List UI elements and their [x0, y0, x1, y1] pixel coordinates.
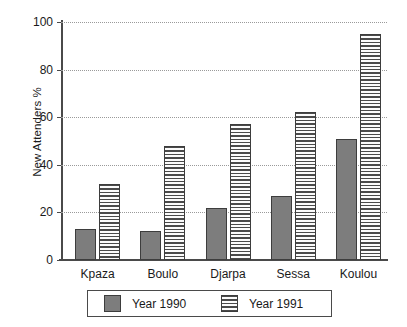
bar-group-djarpa	[206, 22, 251, 260]
legend-label-year-1990: Year 1990	[132, 297, 186, 311]
y-tick-label-60: 60	[40, 110, 53, 124]
bar-djarpa-year-1991	[230, 124, 251, 260]
bar-djarpa-year-1990	[206, 208, 227, 260]
bar-chart: New Attenders % 020406080100KpazaBouloDj…	[0, 0, 407, 327]
plot-area: 020406080100KpazaBouloDjarpaSessaKoulou	[61, 22, 387, 260]
bar-koulou-year-1991	[360, 34, 381, 260]
bar-group-sessa	[271, 22, 316, 260]
legend-label-year-1991: Year 1991	[249, 297, 303, 311]
legend-swatch-year-1990	[104, 295, 121, 312]
x-axis-label-koulou: Koulou	[313, 267, 403, 281]
bar-group-koulou	[336, 22, 381, 260]
y-tick-mark-20	[57, 212, 61, 213]
bar-koulou-year-1990	[336, 139, 357, 260]
y-tick-mark-40	[57, 165, 61, 166]
bar-sessa-year-1991	[295, 112, 316, 260]
legend-entry-year-1991: Year 1991	[221, 291, 303, 316]
chart-legend: Year 1990 Year 1991	[87, 290, 332, 317]
bar-group-kpaza	[75, 22, 120, 260]
y-axis-line	[61, 20, 63, 261]
y-tick-label-0: 0	[46, 253, 53, 267]
legend-entry-year-1990: Year 1990	[104, 291, 186, 316]
bar-group-boulo	[140, 22, 185, 260]
bar-kpaza-year-1991	[99, 184, 120, 260]
legend-swatch-year-1991	[221, 295, 238, 312]
y-tick-label-20: 20	[40, 205, 53, 219]
y-tick-label-80: 80	[40, 63, 53, 77]
bar-boulo-year-1990	[140, 231, 161, 260]
bar-sessa-year-1990	[271, 196, 292, 260]
bar-kpaza-year-1990	[75, 229, 96, 260]
y-tick-label-40: 40	[40, 158, 53, 172]
y-tick-mark-100	[57, 22, 61, 23]
y-tick-mark-0	[57, 260, 61, 261]
y-tick-mark-80	[57, 70, 61, 71]
y-tick-label-100: 100	[33, 15, 53, 29]
bar-boulo-year-1991	[164, 146, 185, 260]
y-tick-mark-60	[57, 117, 61, 118]
